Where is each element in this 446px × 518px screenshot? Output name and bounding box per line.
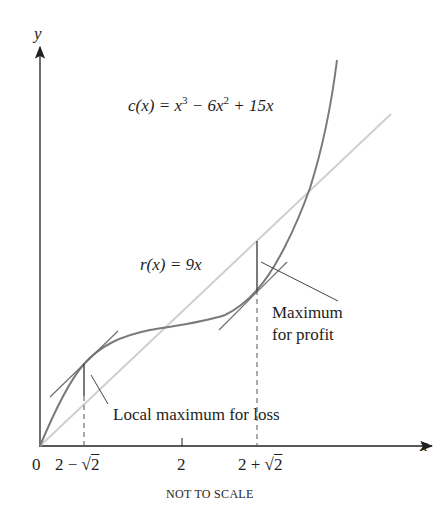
y-axis-label: y (34, 24, 42, 44)
loss-annotation: Local maximum for loss (113, 405, 280, 425)
tick-label-2: 2 (177, 455, 186, 475)
tick-label-2-minus-sqrt2: 2 − √2 (55, 455, 99, 475)
revenue-line (40, 114, 391, 446)
x-axis-label: x (420, 436, 428, 456)
cost-curve-label: c(x) = x3 − 6x2 + 15x (128, 96, 274, 116)
not-to-scale-note: NOT TO SCALE (166, 487, 254, 502)
origin-label: 0 (32, 455, 41, 475)
leader-profit (261, 262, 338, 301)
profit-annotation-line1: Maximum (272, 303, 343, 323)
leader-loss (91, 375, 108, 404)
diagram-canvas (0, 0, 446, 518)
tick-label-2-plus-sqrt2: 2 + √2 (238, 455, 282, 475)
profit-annotation-line2: for profit (272, 325, 334, 345)
revenue-line-label: r(x) = 9x (140, 255, 202, 275)
